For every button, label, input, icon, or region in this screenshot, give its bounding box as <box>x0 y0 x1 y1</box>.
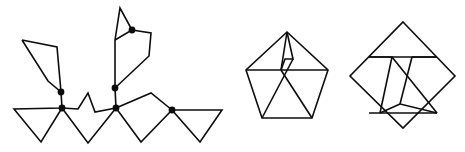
vertex-middle-upper-junction <box>112 85 119 92</box>
inner-cross-right <box>262 59 293 118</box>
figure-canvas <box>0 0 465 152</box>
diamond-outline <box>350 22 455 128</box>
vertex-middle-lower-junction <box>113 105 120 112</box>
inner-right-leg <box>400 57 437 113</box>
branching-polyline-figure <box>14 8 222 143</box>
left-upper-spike <box>22 40 61 92</box>
middle-vertical-stem <box>115 40 116 108</box>
left-lower-wing <box>14 92 62 142</box>
vertex-top-spike-junction <box>129 27 136 34</box>
line-drawing-svg <box>0 0 465 152</box>
inner-left-peak <box>369 57 392 113</box>
inner-notch-apex <box>281 32 293 70</box>
vertex-lower-left-junction <box>59 105 66 112</box>
lower-center-v <box>62 108 116 143</box>
right-lower-v <box>116 108 172 142</box>
upper-spike-left <box>115 8 132 40</box>
vertex-right-junction <box>169 107 176 114</box>
right-triangle <box>172 110 222 142</box>
inner-cross-left <box>281 70 312 118</box>
center-zigzag-and-baseline <box>62 93 116 112</box>
pentagon-with-inner-lines-figure <box>246 32 328 118</box>
right-branch <box>116 93 172 110</box>
pentagon-outline <box>246 32 328 118</box>
diamond-with-inner-lines-figure <box>350 22 455 128</box>
upper-right-hook <box>115 30 151 88</box>
vertex-upper-left-junction <box>58 89 65 96</box>
